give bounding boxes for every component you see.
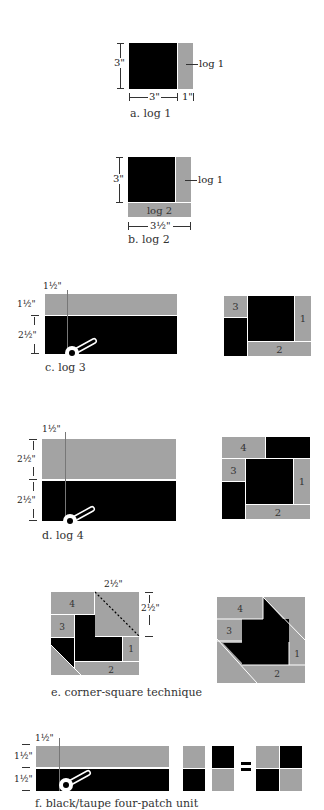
equals-sign: [241, 762, 251, 765]
finished-block: 4 3 1 2: [217, 597, 307, 687]
strip-width-label: 1": [182, 92, 193, 102]
width-label: 2½": [104, 580, 123, 589]
log1-strip: 1: [295, 296, 311, 341]
cut-label: 1½": [35, 734, 54, 743]
log-pointer: [186, 64, 198, 65]
fourpatch-tr: [280, 746, 302, 768]
log2-strip: log 2: [128, 203, 191, 217]
center-square: [128, 157, 175, 202]
fourpatch-br: [280, 769, 302, 791]
taupe-strip: [42, 439, 176, 479]
log1-strip: [178, 43, 193, 89]
caption-a: a. log 1: [130, 108, 171, 119]
log3-strip: 3: [222, 459, 245, 481]
top-label: 1½": [17, 300, 36, 309]
height-label: 3": [114, 58, 125, 68]
svg-text:1: 1: [128, 644, 134, 654]
svg-text:3: 3: [59, 622, 65, 632]
log1-strip: 1: [294, 459, 310, 504]
caption-d: d. log 4: [42, 530, 84, 541]
rotary-cutter-icon: [58, 498, 108, 533]
height-label: 3": [113, 174, 124, 184]
caption-b: b. log 2: [128, 234, 170, 245]
width-label: 3": [148, 92, 161, 102]
svg-text:2: 2: [108, 665, 114, 675]
caption-c: c. log 3: [45, 362, 86, 373]
corner-square-top: [266, 437, 310, 458]
log4-strip: 4: [222, 437, 265, 458]
fourpatch-bl: [256, 769, 279, 791]
caption-f: f. black/taupe four-patch unit: [35, 798, 198, 809]
bottom-label: 2½": [17, 496, 36, 505]
log2-strip: 2: [248, 342, 311, 356]
cut-label: 1½": [43, 282, 62, 291]
svg-text:3: 3: [226, 626, 232, 636]
top-label: 1½": [14, 752, 33, 761]
corner-square-bottom: [222, 482, 245, 519]
svg-text:4: 4: [69, 599, 75, 609]
cut-label: 1½": [42, 425, 61, 434]
log3-strip: 3: [224, 296, 247, 317]
corner-square-technique-block: 4 3 1 2: [51, 592, 141, 682]
top-label: 2½": [17, 455, 36, 464]
svg-text:1: 1: [294, 649, 300, 659]
log2-strip: 2: [246, 505, 310, 519]
bottom-label: 2½": [18, 331, 37, 340]
width-label: 3½": [148, 221, 173, 231]
log1-label: log 1: [198, 175, 223, 185]
log-pointer: [185, 180, 197, 181]
log1-label: log 1: [199, 59, 224, 69]
center-square: [246, 459, 293, 504]
unit2-top: [212, 746, 234, 768]
fourpatch-tl: [256, 746, 279, 768]
unit1-bottom: [183, 769, 205, 791]
corner-square: [224, 318, 247, 356]
unit1-top: [183, 746, 205, 768]
taupe-strip: [36, 746, 169, 767]
rotary-cutter-icon: [60, 330, 110, 365]
taupe-strip: [45, 294, 177, 315]
height-label: 2½": [141, 604, 160, 613]
svg-text:4: 4: [237, 604, 243, 614]
caption-e: e. corner-square technique: [51, 687, 202, 698]
bottom-label: 1½": [14, 775, 33, 784]
svg-text:2: 2: [274, 669, 280, 679]
center-square: [129, 43, 177, 89]
unit2-bottom: [212, 769, 234, 791]
center-square: [248, 296, 294, 341]
